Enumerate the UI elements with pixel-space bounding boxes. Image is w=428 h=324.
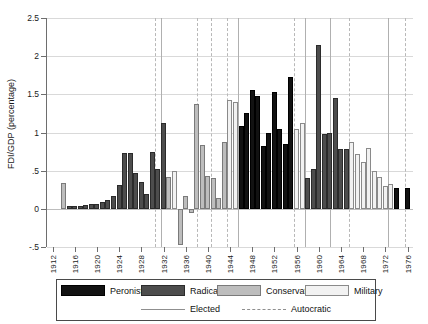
bar-1955 — [288, 77, 293, 209]
x-tick-label: 1952 — [270, 255, 279, 273]
x-tick-mark — [75, 247, 76, 252]
y-tick-mark — [41, 209, 46, 210]
legend-item-autocratic[interactable]: Autocratic — [242, 304, 331, 314]
gridline-y — [47, 94, 413, 95]
bar-1959 — [311, 169, 316, 209]
legend-swatch-radical — [141, 285, 185, 296]
bar-1915 — [67, 206, 72, 209]
regime-line-elected — [388, 18, 389, 247]
bar-1945 — [233, 102, 238, 209]
x-tick-label: 1944 — [226, 255, 235, 273]
bar-1923 — [111, 196, 116, 209]
x-tick-mark — [274, 247, 275, 252]
bar-1924 — [117, 185, 122, 209]
legend-item-peronist[interactable]: Peronist — [61, 285, 143, 296]
x-tick-mark — [186, 247, 187, 252]
bar-1927 — [133, 173, 138, 209]
gridline-y — [47, 18, 413, 19]
bar-1938 — [194, 104, 199, 209]
x-tick-label: 1948 — [248, 255, 257, 273]
bar-1971 — [377, 177, 382, 209]
x-tick-label: 1912 — [49, 255, 58, 273]
bar-1930 — [150, 152, 155, 209]
bar-1956 — [294, 129, 299, 208]
x-tick-label: 1964 — [337, 255, 346, 273]
x-tick-label: 1916 — [71, 255, 80, 273]
x-tick-mark — [119, 247, 120, 252]
y-tick-mark — [41, 18, 46, 19]
legend-item-conservative[interactable]: Conservative — [217, 285, 319, 296]
bar-1972 — [383, 186, 388, 209]
bar-1973 — [388, 184, 393, 209]
y-tick-mark — [41, 56, 46, 57]
y-tick-mark — [41, 94, 46, 95]
bar-1950 — [261, 146, 266, 209]
x-tick-mark — [53, 247, 54, 252]
x-tick-mark — [230, 247, 231, 252]
x-tick-label: 1940 — [204, 255, 213, 273]
bar-1968 — [361, 162, 366, 209]
bar-1962 — [327, 133, 332, 209]
bar-1920 — [94, 204, 99, 209]
bar-1976 — [405, 188, 410, 209]
bar-1958 — [305, 178, 310, 209]
bar-1944 — [227, 100, 232, 208]
zero-line — [47, 209, 413, 210]
x-tick-label: 1920 — [93, 255, 102, 273]
legend-swatch-peronist — [61, 285, 105, 296]
x-tick-label: 1972 — [381, 255, 390, 273]
chart-legend: PeronistRadicalConservativeMilitary Elec… — [56, 279, 376, 321]
legend-line-autocratic — [242, 309, 286, 310]
legend-label-peronist: Peronist — [110, 286, 143, 296]
y-tick-label: 1 — [34, 128, 39, 138]
y-tick-label: .5 — [32, 166, 39, 176]
bar-1943 — [222, 142, 227, 209]
y-tick-mark — [41, 171, 46, 172]
y-axis-tick-labels: 2.521.51.50-.5 — [0, 0, 39, 324]
bar-1949 — [255, 96, 260, 209]
bar-1928 — [139, 182, 144, 209]
legend-swatch-military — [305, 285, 349, 296]
x-tick-label: 1976 — [404, 255, 413, 273]
bar-1974 — [394, 188, 399, 209]
bar-1963 — [333, 98, 338, 209]
bar-1946 — [239, 126, 244, 208]
bar-1939 — [200, 145, 205, 209]
bar-1954 — [283, 144, 288, 209]
bar-1957 — [300, 123, 305, 209]
bar-1922 — [105, 200, 110, 209]
x-tick-mark — [208, 247, 209, 252]
bar-1935 — [178, 209, 183, 245]
y-tick-label: 0 — [34, 204, 39, 214]
bar-1929 — [144, 194, 149, 209]
bar-1917 — [78, 206, 83, 209]
bar-1952 — [272, 92, 277, 209]
bar-1961 — [322, 134, 327, 209]
x-tick-label: 1968 — [359, 255, 368, 273]
legend-item-military[interactable]: Military — [305, 285, 383, 296]
bar-1948 — [250, 90, 255, 209]
x-tick-label: 1932 — [160, 255, 169, 273]
bar-1941 — [211, 178, 216, 209]
y-tick-label: 1.5 — [27, 89, 39, 99]
bar-1964 — [338, 149, 343, 209]
gridline-y — [47, 56, 413, 57]
bar-1951 — [266, 133, 271, 209]
x-tick-mark — [141, 247, 142, 252]
bar-1933 — [166, 177, 171, 209]
bar-1918 — [83, 205, 88, 209]
y-tick-mark — [41, 247, 46, 248]
bar-1965 — [344, 149, 349, 209]
legend-item-elected[interactable]: Elected — [141, 304, 220, 314]
plot-area — [47, 18, 413, 247]
bar-1967 — [355, 154, 360, 209]
legend-item-radical[interactable]: Radical — [141, 285, 220, 296]
chart-root: FDI/GDP (percentage) 2.521.51.50-.5 Pero… — [0, 0, 428, 324]
legend-line-elected — [141, 309, 185, 310]
regime-line-autocratic — [155, 18, 156, 247]
x-tick-label: 1936 — [182, 255, 191, 273]
bar-1925 — [122, 153, 127, 209]
y-tick-label: 2 — [34, 51, 39, 61]
legend-label-radical: Radical — [190, 286, 220, 296]
bar-1931 — [155, 169, 160, 209]
